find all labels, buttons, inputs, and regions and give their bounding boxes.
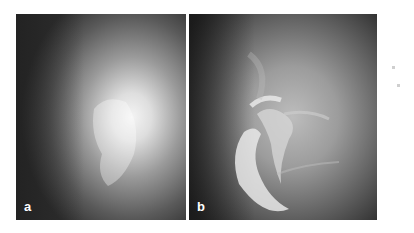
scan-artifact bbox=[397, 84, 400, 87]
image-panel-b: b bbox=[189, 14, 377, 220]
scan-artifact bbox=[392, 66, 395, 69]
panel-label-a: a bbox=[24, 200, 31, 213]
image-panel-a: a bbox=[16, 14, 186, 220]
fluoroscopy-image-a bbox=[16, 14, 186, 220]
panel-label-b: b bbox=[197, 200, 205, 213]
fluoroscopy-image-b bbox=[189, 14, 377, 220]
